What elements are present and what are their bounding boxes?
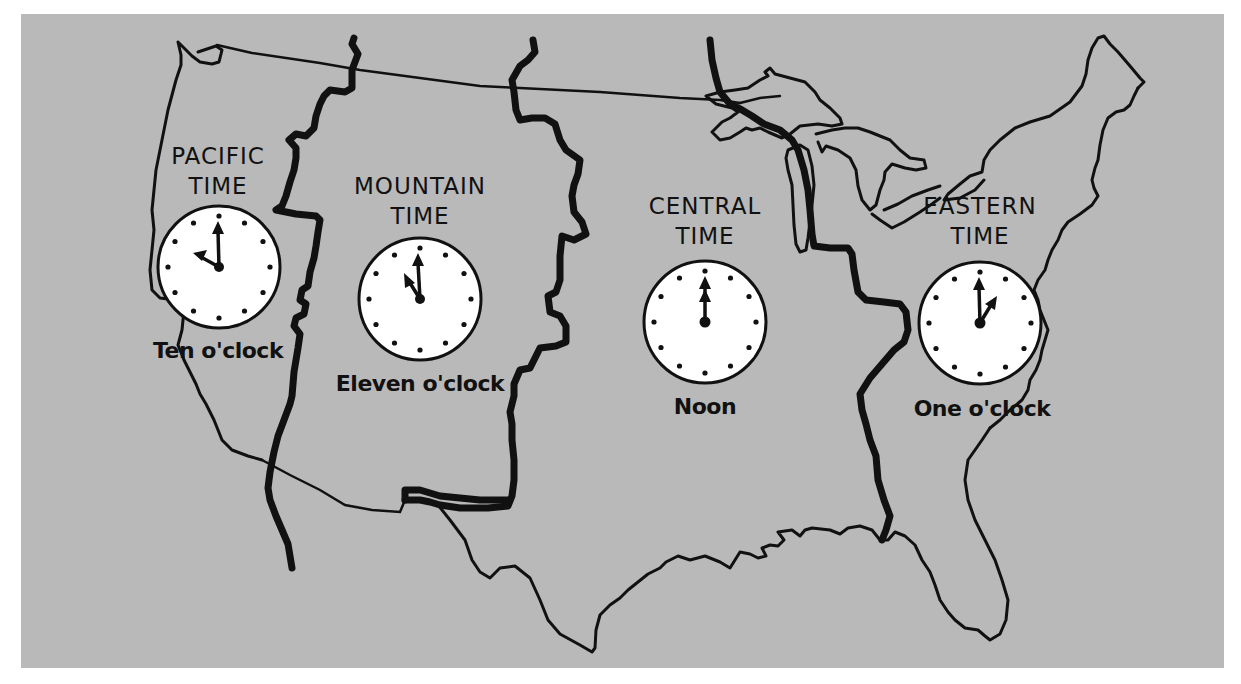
clock-icon <box>644 261 766 383</box>
zone-pacific-title-line2: TIME <box>187 173 247 199</box>
zone-eastern-time-label: One o'clock <box>914 396 1053 421</box>
gulf-coast-outline <box>438 428 1008 652</box>
zone-eastern-title-line1: EASTERN <box>923 193 1037 219</box>
zone-pacific-time-label: Ten o'clock <box>153 338 285 363</box>
zone-central: CENTRAL TIME Noon <box>644 193 766 419</box>
zone-mountain: MOUNTAIN TIME Eleven o'clock <box>336 173 506 396</box>
pacific-mountain-boundary <box>268 38 358 568</box>
mexico-border-line <box>262 460 440 512</box>
zone-eastern: EASTERN TIME One o'clock <box>914 193 1053 421</box>
northeast-outline <box>944 36 1144 200</box>
clock-icon <box>359 238 481 360</box>
zone-eastern-title-line2: TIME <box>949 223 1009 249</box>
us-time-zone-map: PACIFIC TIME Ten o'clock MOUNTAIN TIME <box>0 0 1241 684</box>
clock-icon <box>919 262 1041 384</box>
northern-border-line <box>217 45 740 103</box>
lake-of-woods-notch <box>740 96 780 103</box>
zone-pacific: PACIFIC TIME Ten o'clock <box>153 143 285 363</box>
zone-mountain-title-line1: MOUNTAIN <box>354 173 486 199</box>
east-coast-outline <box>990 88 1138 428</box>
zone-central-title-line2: TIME <box>674 223 734 249</box>
clock-icon <box>158 206 280 328</box>
zone-central-time-label: Noon <box>674 394 736 419</box>
zone-mountain-title-line2: TIME <box>389 203 449 229</box>
zone-mountain-time-label: Eleven o'clock <box>336 371 506 396</box>
zone-central-title-line1: CENTRAL <box>649 193 761 219</box>
zone-pacific-title-line1: PACIFIC <box>171 143 265 169</box>
